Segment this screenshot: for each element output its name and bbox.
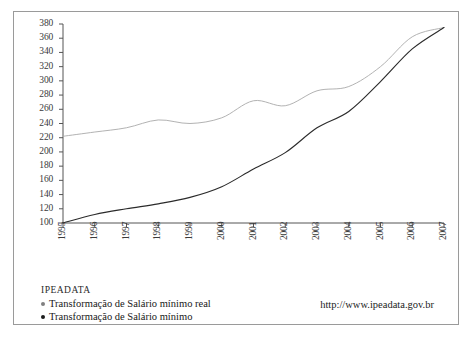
x-tick-label: 1995: [57, 222, 67, 240]
y-tick-label: 320: [23, 61, 53, 71]
x-tick-label: 2002: [279, 222, 289, 240]
chart-frame: 1001201401601802002202402602803003203403…: [13, 11, 459, 325]
y-tick-label: 340: [23, 46, 53, 56]
x-tick-label: 1998: [152, 222, 162, 240]
y-tick-label: 180: [23, 160, 53, 170]
y-tick-label: 360: [23, 32, 53, 42]
x-tick-label: 2000: [216, 222, 226, 240]
x-tick-label: 1996: [89, 222, 99, 240]
chart-legend: IPEADATA Transformação de Salário mínimo…: [41, 285, 211, 323]
y-tick-label: 380: [23, 18, 53, 28]
series-line-2: [63, 28, 444, 223]
y-tick-label: 220: [23, 132, 53, 142]
legend-title: IPEADATA: [41, 285, 211, 295]
x-tick-label: 1997: [121, 222, 131, 240]
x-tick-label: 2003: [311, 222, 321, 240]
y-tick-label: 100: [23, 217, 53, 227]
legend-marker-icon: [41, 315, 45, 319]
source-url-text: http://www.ipeadata.gov.br: [320, 299, 434, 310]
data-series-group: [63, 28, 444, 223]
x-tick-label: 1999: [184, 222, 194, 240]
y-axis-ticks: [59, 24, 63, 223]
axes: [63, 24, 444, 223]
line-chart-plot: [14, 12, 458, 324]
chart-screenshot: 1001201401601802002202402602803003203403…: [0, 0, 471, 339]
y-tick-label: 240: [23, 118, 53, 128]
legend-item-label: Transformação de Salário mínimo real: [49, 297, 211, 310]
legend-item-salario-minimo-real: Transformação de Salário mínimo real: [41, 297, 211, 310]
x-tick-label: 2006: [406, 222, 416, 240]
series-line-1: [63, 28, 444, 137]
y-tick-label: 260: [23, 103, 53, 113]
x-tick-label: 2001: [248, 222, 258, 240]
y-tick-label: 120: [23, 203, 53, 213]
y-tick-label: 300: [23, 75, 53, 85]
y-tick-label: 140: [23, 189, 53, 199]
x-tick-label: 2004: [343, 222, 353, 240]
legend-item-label: Transformação de Salário mínimo: [49, 310, 192, 323]
y-tick-label: 200: [23, 146, 53, 156]
y-tick-label: 280: [23, 89, 53, 99]
legend-marker-icon: [41, 302, 45, 306]
x-tick-label: 2005: [375, 222, 385, 240]
x-tick-label: 2007: [438, 222, 448, 240]
y-tick-label: 160: [23, 174, 53, 184]
legend-item-salario-minimo: Transformação de Salário mínimo: [41, 310, 211, 323]
